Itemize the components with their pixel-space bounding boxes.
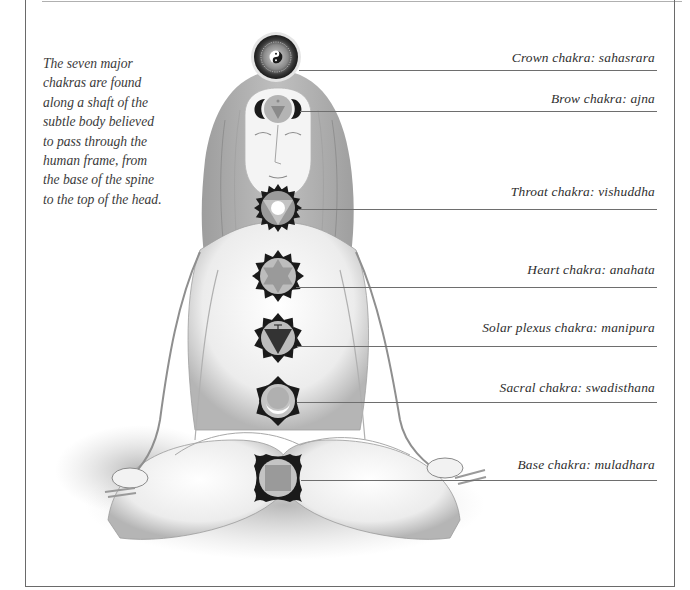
heart-leader-line (296, 287, 657, 288)
intro-line: subtle body believed (43, 112, 233, 131)
intro-line: The seven major (43, 54, 233, 73)
crown-chakra-symbol (251, 32, 301, 82)
solar-plexus-chakra-label: Solar plexus chakra: manipura (482, 320, 655, 336)
crown-chakra-label: Crown chakra: sahasrara (512, 50, 655, 66)
base-leader-line (301, 480, 657, 481)
intro-line: chakras are found (43, 73, 233, 92)
intro-line: along a shaft of the (43, 93, 233, 112)
intro-line: to the top of the head. (43, 190, 233, 209)
intro-line: human frame, from (43, 151, 233, 170)
throat-chakra-symbol (254, 184, 302, 232)
solar-plexus-leader-line (297, 346, 657, 347)
sacral-chakra-label: Sacral chakra: swadisthana (500, 380, 655, 396)
sacral-leader-line (297, 402, 657, 403)
base-chakra-symbol (254, 454, 302, 502)
throat-leader-line (298, 209, 657, 210)
heart-chakra-label: Heart chakra: anahata (527, 262, 655, 278)
intro-line: the base of the spine (43, 170, 233, 189)
crown-leader-line (299, 70, 657, 71)
brow-leader-line (300, 111, 657, 112)
intro-caption: The seven major chakras are found along … (43, 54, 233, 209)
throat-chakra-label: Throat chakra: vishuddha (511, 184, 655, 200)
brow-chakra-label: Brow chakra: ajna (551, 91, 655, 107)
intro-line: to pass through the (43, 132, 233, 151)
base-chakra-label: Base chakra: muladhara (517, 457, 655, 473)
